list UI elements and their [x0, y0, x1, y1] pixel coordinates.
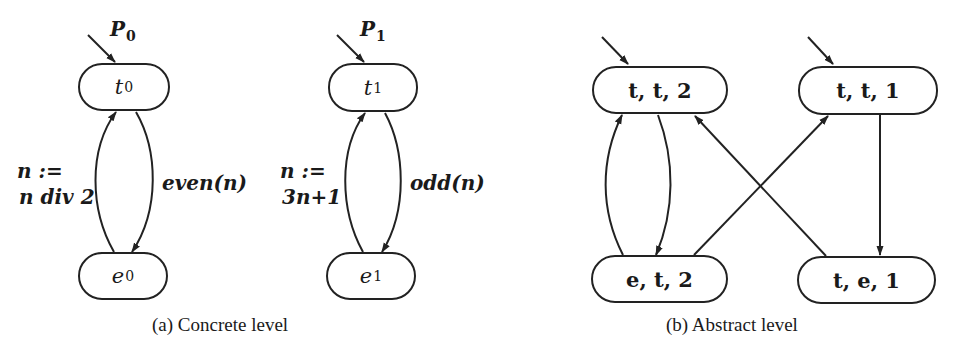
caption-concrete: (a) Concrete level — [152, 314, 288, 336]
edge-label-odd: odd(n) — [410, 172, 485, 195]
node-e1: e1 — [326, 252, 416, 300]
node-e1-sub: 1 — [373, 268, 382, 284]
edge-label-assign-p1-line1: n := — [280, 160, 326, 183]
node-te1: t, e, 1 — [797, 256, 936, 304]
p0-subscript: 0 — [126, 28, 136, 44]
edge-tt2-to-et2 — [656, 115, 671, 255]
node-t0-name: t — [115, 75, 123, 99]
node-e0-sub: 0 — [125, 268, 134, 284]
p1-subscript: 1 — [376, 28, 386, 44]
edge-label-assign-p1-line2: 3n+1 — [282, 186, 341, 209]
node-te1-label: t, e, 1 — [833, 268, 900, 293]
initial-arrow-tt2 — [602, 37, 628, 64]
edge-t0-to-e0 — [132, 112, 153, 252]
node-et2-label: e, t, 2 — [626, 267, 693, 292]
initial-arrow-tt1 — [808, 37, 833, 64]
node-e1-name: e — [360, 264, 372, 288]
node-t1: t1 — [328, 63, 418, 112]
node-tt2-label: t, t, 2 — [628, 78, 691, 103]
initial-label-p0: P0 — [110, 18, 136, 44]
node-et2: e, t, 2 — [591, 255, 728, 303]
edge-label-even: even(n) — [162, 172, 247, 195]
node-t0-sub: 0 — [124, 79, 133, 95]
initial-label-p1: P1 — [360, 18, 386, 44]
edge-e0-to-t0 — [96, 112, 117, 252]
edge-e1-to-t1 — [345, 113, 365, 252]
p0-letter: P — [110, 17, 125, 41]
edge-label-assign-p0-line2: n div 2 — [19, 186, 95, 209]
edge-label-assign-p0-line1: n := — [17, 160, 63, 183]
caption-abstract: (b) Abstract level — [666, 314, 798, 336]
edge-t1-to-e1 — [382, 113, 401, 252]
node-e0-name: e — [112, 264, 124, 288]
edge-et2-to-tt2 — [606, 115, 623, 255]
node-tt1-label: t, t, 1 — [836, 78, 899, 103]
node-t1-name: t — [364, 76, 372, 100]
node-t0: t0 — [78, 63, 170, 111]
p1-letter: P — [360, 17, 375, 41]
node-t1-sub: 1 — [373, 80, 382, 96]
node-tt1: t, t, 1 — [798, 66, 938, 115]
node-tt2: t, t, 2 — [592, 66, 728, 114]
node-e0: e0 — [78, 252, 168, 300]
